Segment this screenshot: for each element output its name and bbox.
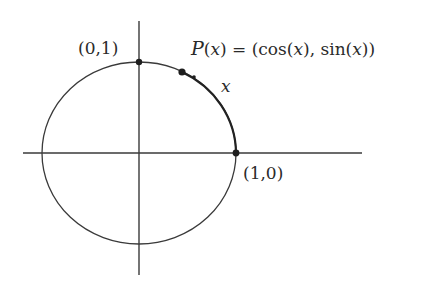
p-arg: x xyxy=(210,39,220,59)
p-arg-cos: x xyxy=(293,39,303,59)
label-p-formula: P(x) = (cos(x), sin(x)) xyxy=(190,37,375,59)
label-arc-x: x xyxy=(221,76,231,96)
p-open: ( xyxy=(204,39,211,59)
label-right-point: (1,0) xyxy=(243,163,283,183)
point-p xyxy=(178,68,185,75)
p-mid: ), sin( xyxy=(303,39,352,59)
p-end: )) xyxy=(362,39,375,59)
point-top xyxy=(136,59,142,65)
unit-circle-diagram: (0,1) (1,0) P(x) = (cos(x), sin(x)) x xyxy=(0,0,446,287)
p-arg-sin: x xyxy=(352,39,362,59)
p-prefix: P xyxy=(190,37,205,59)
p-eq: ) = (cos( xyxy=(220,39,293,59)
point-right xyxy=(233,150,240,157)
label-top-point: (0,1) xyxy=(78,38,118,58)
arc-tick xyxy=(192,75,196,79)
